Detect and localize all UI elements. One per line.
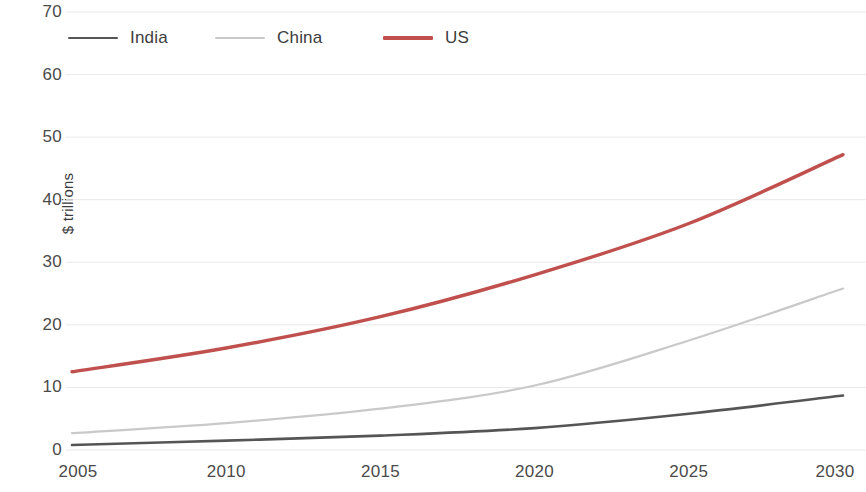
series-line-india bbox=[72, 396, 843, 445]
legend-item-china[interactable]: China bbox=[215, 27, 322, 49]
legend-label-us: US bbox=[445, 27, 469, 49]
plot-area bbox=[0, 0, 866, 492]
series-line-china bbox=[72, 289, 843, 434]
legend-swatch-china-icon bbox=[215, 37, 265, 39]
series-line-us bbox=[72, 155, 843, 372]
legend-swatch-india-icon bbox=[68, 37, 118, 40]
legend-label-india: India bbox=[130, 27, 168, 49]
legend-item-india[interactable]: India bbox=[68, 27, 168, 49]
line-chart: $ trillions 010203040506070 200520102015… bbox=[0, 0, 866, 492]
legend-item-us[interactable]: US bbox=[383, 27, 469, 49]
legend-swatch-us-icon bbox=[383, 36, 433, 39]
legend-label-china: China bbox=[277, 27, 322, 49]
chart-legend: IndiaChinaUS bbox=[0, 27, 866, 49]
